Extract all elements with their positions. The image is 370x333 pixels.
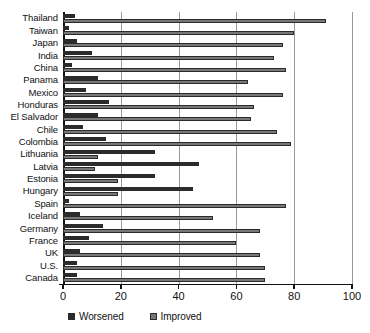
legend-label-worsened: Worsened xyxy=(79,311,124,322)
category-label: Thailand xyxy=(0,12,62,24)
bar-improved xyxy=(63,253,260,257)
bar-worsened xyxy=(63,14,75,18)
bar-group xyxy=(63,259,352,271)
x-tick-mark xyxy=(120,284,122,289)
bar-worsened xyxy=(63,39,77,43)
bar-group xyxy=(63,210,352,222)
category-label: Japan xyxy=(0,37,62,49)
bar-improved xyxy=(63,105,254,109)
bar-group xyxy=(63,234,352,246)
x-tick-mark xyxy=(178,284,180,289)
bar-worsened xyxy=(63,212,80,216)
bar-improved xyxy=(63,192,118,196)
bars-container xyxy=(63,12,352,284)
legend-item-improved: Improved xyxy=(150,311,202,322)
bar-worsened xyxy=(63,162,199,166)
category-label: Canada xyxy=(0,272,62,284)
category-label: Germany xyxy=(0,222,62,234)
x-tick-mark xyxy=(293,284,295,289)
bar-improved xyxy=(63,142,291,146)
bar-group xyxy=(63,49,352,61)
bar-improved xyxy=(63,43,283,47)
bar-group xyxy=(63,37,352,49)
bar-group xyxy=(63,160,352,172)
x-tick-mark xyxy=(62,284,64,289)
bar-improved xyxy=(63,278,265,282)
x-tick-label: 80 xyxy=(288,290,300,302)
legend-item-worsened: Worsened xyxy=(68,311,124,322)
bar-improved xyxy=(63,216,213,220)
bar-group xyxy=(63,99,352,111)
bar-group xyxy=(63,74,352,86)
x-tick-label: 40 xyxy=(172,290,184,302)
bar-group xyxy=(63,247,352,259)
category-label: China xyxy=(0,61,62,73)
bar-group xyxy=(63,61,352,73)
bar-group xyxy=(63,222,352,234)
category-label: Lithuania xyxy=(0,148,62,160)
bar-worsened xyxy=(63,63,72,67)
improved-swatch-icon xyxy=(150,313,157,320)
bar-group xyxy=(63,12,352,24)
category-label: Panama xyxy=(0,74,62,86)
bar-group xyxy=(63,136,352,148)
chart-legend: Worsened Improved xyxy=(68,311,202,322)
bar-group xyxy=(63,24,352,36)
bar-worsened xyxy=(63,125,83,129)
category-label: Iceland xyxy=(0,210,62,222)
bar-improved xyxy=(63,167,95,171)
x-tick-label: 60 xyxy=(230,290,242,302)
bar-group xyxy=(63,111,352,123)
x-tick-mark xyxy=(236,284,238,289)
bar-worsened xyxy=(63,150,155,154)
plot-area xyxy=(63,12,352,284)
bar-improved xyxy=(63,19,326,23)
category-label: India xyxy=(0,49,62,61)
bar-worsened xyxy=(63,249,80,253)
category-label: Colombia xyxy=(0,136,62,148)
bar-worsened xyxy=(63,26,69,30)
bar-chart: ThailandTaiwanJapanIndiaChinaPanamaMexic… xyxy=(0,0,370,333)
bar-worsened xyxy=(63,100,109,104)
bar-improved xyxy=(63,117,251,121)
bar-improved xyxy=(63,179,118,183)
x-tick-mark xyxy=(351,284,353,289)
bar-worsened xyxy=(63,273,77,277)
bar-worsened xyxy=(63,199,69,203)
bar-improved xyxy=(63,155,98,159)
category-label: Taiwan xyxy=(0,24,62,36)
category-label: France xyxy=(0,234,62,246)
gridline xyxy=(352,12,353,284)
x-tick-label: 100 xyxy=(343,290,361,302)
bar-group xyxy=(63,185,352,197)
x-tick-label: 0 xyxy=(60,290,66,302)
bar-improved xyxy=(63,56,274,60)
x-axis-tick-labels: 020406080100 xyxy=(63,290,352,306)
bar-worsened xyxy=(63,236,89,240)
bar-worsened xyxy=(63,113,98,117)
bar-group xyxy=(63,86,352,98)
worsened-swatch-icon xyxy=(68,313,75,320)
bar-group xyxy=(63,272,352,284)
bar-worsened xyxy=(63,51,92,55)
bar-improved xyxy=(63,241,236,245)
bar-improved xyxy=(63,93,283,97)
category-label: Chile xyxy=(0,123,62,135)
bar-improved xyxy=(63,229,260,233)
bar-worsened xyxy=(63,76,98,80)
category-label: Latvia xyxy=(0,160,62,172)
bar-improved xyxy=(63,80,248,84)
bar-worsened xyxy=(63,88,86,92)
category-label: El Salvador xyxy=(0,111,62,123)
bar-improved xyxy=(63,204,286,208)
bar-group xyxy=(63,148,352,160)
x-tick-label: 20 xyxy=(115,290,127,302)
category-label: Hungary xyxy=(0,185,62,197)
bar-improved xyxy=(63,68,286,72)
bar-worsened xyxy=(63,261,77,265)
bar-improved xyxy=(63,266,265,270)
bar-worsened xyxy=(63,224,103,228)
category-label: UK xyxy=(0,247,62,259)
bar-group xyxy=(63,197,352,209)
bar-improved xyxy=(63,31,294,35)
